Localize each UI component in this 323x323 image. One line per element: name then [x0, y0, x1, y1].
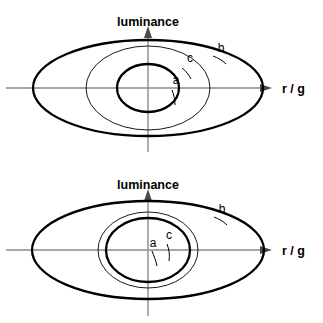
leader-line-c-bottom [167, 244, 169, 261]
leader-line-b-top [213, 56, 226, 64]
leader-line-a-bottom [152, 251, 157, 266]
x-axis-label-bottom: r / g [282, 244, 305, 258]
curve-label-a-bottom: a [150, 236, 157, 250]
y-axis-label-top: luminance [117, 15, 179, 29]
curve-label-b-bottom: b [219, 202, 226, 216]
curve-label-b-top: b [218, 41, 225, 55]
curve-label-c-bottom: c [166, 228, 172, 242]
figure-root: luminance r / g b c a luminance r / g b … [0, 0, 323, 323]
x-axis-arrow-icon-bottom [260, 246, 272, 254]
lower-panel: luminance r / g b c a [0, 161, 323, 323]
x-axis-label-top: r / g [282, 82, 305, 96]
curve-label-a-top: a [173, 73, 180, 87]
leader-line-c-top [182, 68, 191, 79]
curve-label-c-top: c [187, 51, 193, 65]
upper-panel: luminance r / g b c a [0, 0, 323, 162]
leader-line-b-bottom [214, 217, 227, 225]
y-axis-label-bottom: luminance [117, 178, 179, 192]
